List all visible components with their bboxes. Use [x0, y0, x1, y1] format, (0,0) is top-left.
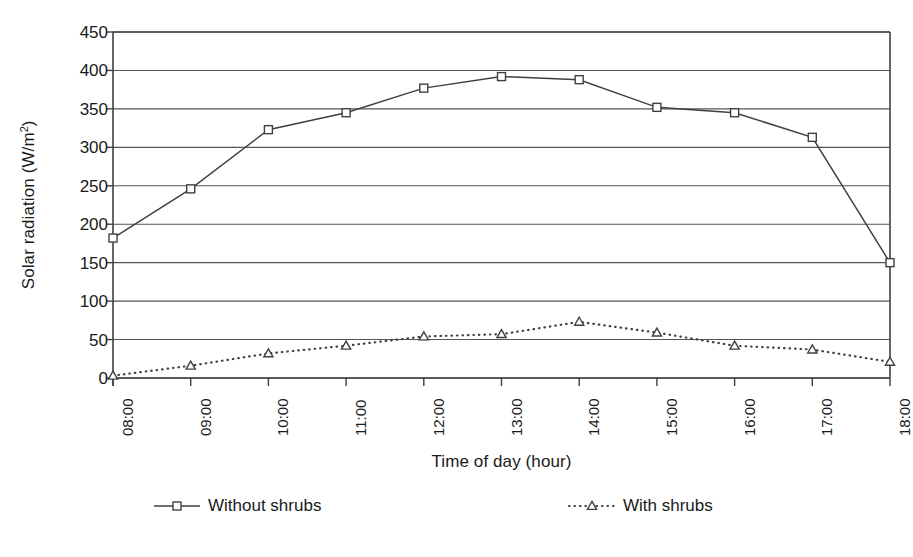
x-axis-tick-label: 15:00 — [664, 398, 679, 436]
square-marker-icon — [153, 498, 201, 514]
triangle-marker-icon — [568, 498, 616, 514]
x-axis-tick-label: 14:00 — [586, 398, 601, 436]
x-axis-tick-label: 12:00 — [431, 398, 446, 436]
x-axis-tick-labels: 08:0009:0010:0011:0012:0013:0014:0015:00… — [0, 0, 913, 557]
x-axis-tick-label: 13:00 — [509, 398, 524, 436]
x-axis-tick-label: 18:00 — [897, 398, 912, 436]
triangle-marker-icon — [587, 501, 596, 509]
legend-item-with-shrubs[interactable]: With shrubs — [568, 496, 713, 516]
x-axis-tick-label: 17:00 — [819, 398, 834, 436]
x-axis-tick-label: 10:00 — [275, 398, 290, 436]
chart-legend: Without shrubsWith shrubs — [113, 496, 890, 526]
x-axis-tick-label: 08:00 — [120, 398, 135, 436]
legend-item-without-shrubs[interactable]: Without shrubs — [153, 496, 321, 516]
solar-radiation-line-chart: Solar radiation (W/m2) 05010015020025030… — [0, 0, 913, 557]
x-axis-title: Time of day (hour) — [113, 452, 890, 472]
legend-item-label: With shrubs — [623, 496, 713, 516]
x-axis-tick-label: 16:00 — [742, 398, 757, 436]
square-marker-icon — [173, 502, 181, 510]
x-axis-tick-label: 09:00 — [198, 398, 213, 436]
x-axis-tick-label: 11:00 — [353, 400, 368, 436]
legend-item-label: Without shrubs — [208, 496, 321, 516]
